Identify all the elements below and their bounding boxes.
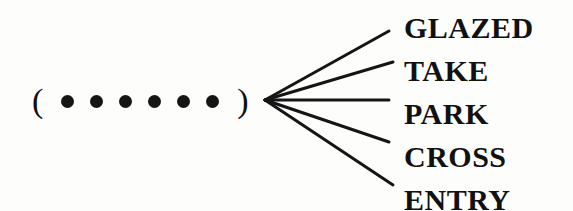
connector-line xyxy=(265,62,393,100)
connector-line xyxy=(265,100,389,142)
word-glazed: GLAZED xyxy=(404,6,534,49)
word-list: GLAZED TAKE PARK CROSS ENTRY xyxy=(404,6,534,211)
connector-line xyxy=(265,100,393,185)
word-entry: ENTRY xyxy=(404,178,534,211)
connector-line xyxy=(265,31,389,100)
word-take: TAKE xyxy=(404,49,534,92)
word-park: PARK xyxy=(404,92,534,135)
word-cross: CROSS xyxy=(404,135,534,178)
